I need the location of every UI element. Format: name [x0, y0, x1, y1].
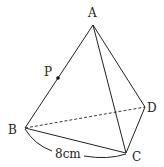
edge-ac: [93, 25, 126, 153]
label-a: A: [87, 6, 97, 20]
measurement-arc-bc-right: [84, 154, 126, 158]
measurement-label: 8cm: [55, 147, 81, 161]
label-c: C: [132, 150, 141, 164]
label-d: D: [147, 101, 157, 115]
measurement-arc-bc: [25, 129, 52, 151]
label-p: P: [44, 65, 52, 79]
edge-bd-hidden: [25, 107, 145, 128]
edge-cd: [126, 107, 145, 153]
label-b: B: [8, 123, 17, 137]
edge-ad: [93, 25, 145, 107]
tetrahedron-diagram: A B C D P 8cm: [0, 0, 164, 167]
point-p-dot: [56, 76, 60, 80]
edge-ab: [25, 25, 93, 128]
